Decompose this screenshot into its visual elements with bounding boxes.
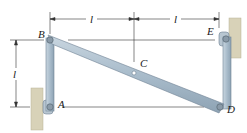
- label-e: E: [206, 25, 214, 37]
- left-wall-support: [31, 88, 43, 130]
- bar-ed: [223, 37, 231, 109]
- linkage-diagram: B A C D E l l l: [0, 0, 247, 133]
- dim-label-vertical: l: [13, 68, 16, 80]
- pin-a: [47, 104, 53, 110]
- dim-label-top-left: l: [90, 13, 93, 25]
- label-c: C: [140, 57, 148, 69]
- label-a: A: [57, 98, 65, 110]
- bar-ab: [46, 38, 54, 111]
- pin-e: [223, 36, 229, 42]
- pin-c: [132, 71, 136, 75]
- dim-label-top-right: l: [174, 13, 177, 25]
- label-d: D: [226, 103, 235, 115]
- pin-b: [47, 37, 53, 43]
- label-b: B: [38, 28, 45, 40]
- pin-d: [217, 104, 223, 110]
